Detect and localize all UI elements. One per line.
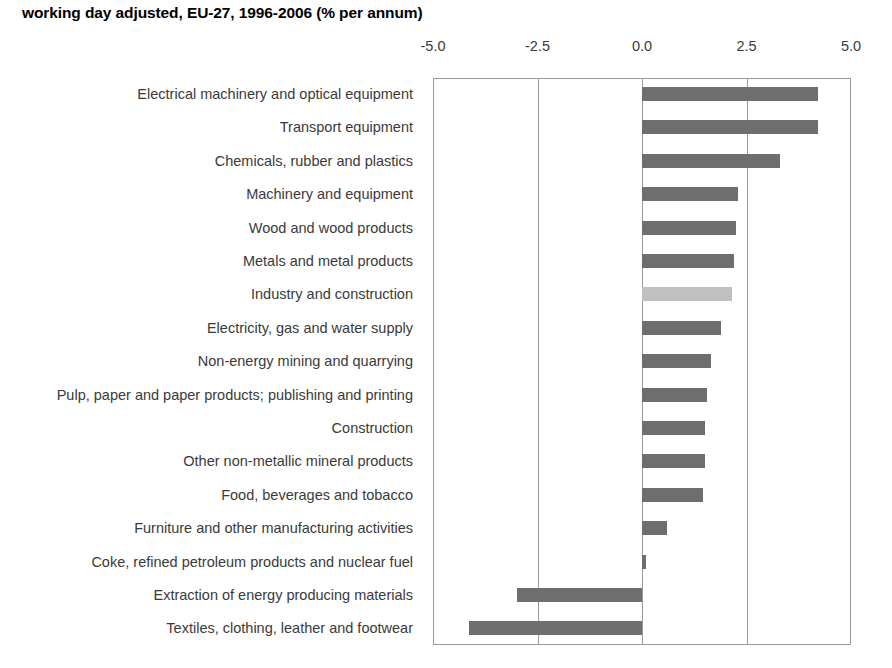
category-label: Furniture and other manufacturing activi… [134,520,413,536]
category-label: Non-energy mining and quarrying [198,353,413,369]
bar-chart: working day adjusted, EU-27, 1996-2006 (… [0,0,892,668]
category-label: Coke, refined petroleum products and nuc… [91,554,413,570]
y-axis-category-labels: Electrical machinery and optical equipme… [0,78,425,645]
gridline [538,79,539,644]
category-label: Construction [332,420,413,436]
category-label: Food, beverages and tobacco [221,487,413,503]
category-label: Electricity, gas and water supply [207,320,413,336]
category-label: Chemicals, rubber and plastics [215,153,413,169]
category-label: Textiles, clothing, leather and footwear [166,620,413,636]
category-label: Machinery and equipment [246,186,413,202]
category-label: Electrical machinery and optical equipme… [137,86,413,102]
category-label: Metals and metal products [243,253,413,269]
category-label: Extraction of energy producing materials [153,587,413,603]
category-label: Transport equipment [280,119,413,135]
x-tick-label: 2.5 [736,38,756,54]
category-label: Industry and construction [251,286,413,302]
category-label: Wood and wood products [249,220,413,236]
x-tick-label: 5.0 [841,38,861,54]
category-label: Pulp, paper and paper products; publishi… [57,387,413,403]
chart-title: working day adjusted, EU-27, 1996-2006 (… [22,4,423,22]
category-label: Other non-metallic mineral products [183,453,413,469]
plot-area [433,78,851,645]
x-tick-label: -2.5 [525,38,550,54]
gridline [747,79,748,644]
x-axis-tick-labels: -5.0-2.50.02.55.0 [0,38,892,60]
gridline [642,79,643,644]
x-tick-label: 0.0 [632,38,652,54]
x-tick-label: -5.0 [421,38,446,54]
